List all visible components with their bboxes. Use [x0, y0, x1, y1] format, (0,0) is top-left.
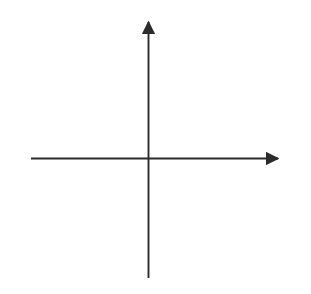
graph-canvas: [0, 0, 311, 294]
coordinate-plane: [0, 0, 311, 294]
